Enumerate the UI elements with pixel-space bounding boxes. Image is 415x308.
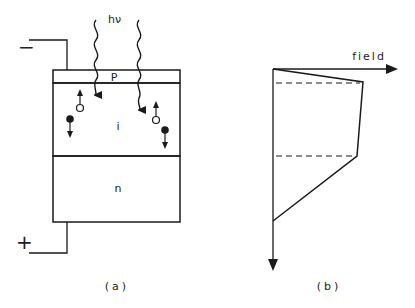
electron-icon xyxy=(161,126,169,134)
depth-axis-arrowhead-icon xyxy=(268,259,278,271)
caption-b: (b) xyxy=(317,280,342,293)
electron-icon xyxy=(66,115,74,123)
field-axis-label: field xyxy=(352,50,386,63)
hole-icon xyxy=(153,117,160,124)
electron-arrowhead-icon xyxy=(162,142,168,149)
field-profile xyxy=(273,69,363,221)
hole-arrowhead-icon xyxy=(153,101,159,108)
positive-terminal-label: + xyxy=(16,230,33,254)
positive-wire xyxy=(29,222,67,253)
caption-a: (a) xyxy=(105,280,129,293)
p-layer-label: P xyxy=(111,71,118,84)
field-axis-arrowhead-icon xyxy=(386,64,398,74)
panel-b: field (b) xyxy=(268,50,398,293)
i-layer-label: i xyxy=(116,120,119,133)
negative-terminal-label: − xyxy=(18,35,35,59)
photon-label: hν xyxy=(108,13,121,26)
hole-icon xyxy=(77,105,84,112)
carrier-pair-right xyxy=(153,101,169,149)
photon-arrow-right xyxy=(137,20,140,110)
diagram-canvas: − P i n + hν xyxy=(0,0,415,308)
n-layer-label: n xyxy=(115,182,122,195)
electron-arrowhead-icon xyxy=(67,131,73,138)
carrier-pair-left xyxy=(66,89,83,138)
hole-arrowhead-icon xyxy=(77,89,83,96)
panel-a: − P i n + hν xyxy=(16,13,180,293)
